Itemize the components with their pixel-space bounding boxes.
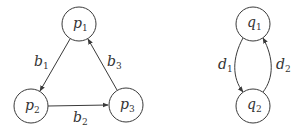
edge-label-d1: d1	[218, 56, 233, 74]
edge-label-b3: b3	[107, 53, 122, 71]
q-graph: q1 q2 d1 d2	[218, 7, 291, 123]
edge-b2	[48, 105, 108, 106]
edge-d2	[263, 38, 271, 92]
edge-label-b2: b2	[73, 109, 88, 127]
diagram-canvas: p1 p2 p3 b1 b2 b3 q1 q2 d1	[0, 0, 305, 130]
edge-label-b1: b1	[34, 53, 49, 71]
edge-d1	[235, 38, 243, 92]
p-graph: p1 p2 p3 b1 b2 b3	[14, 7, 143, 127]
edge-label-d2: d2	[276, 56, 291, 74]
